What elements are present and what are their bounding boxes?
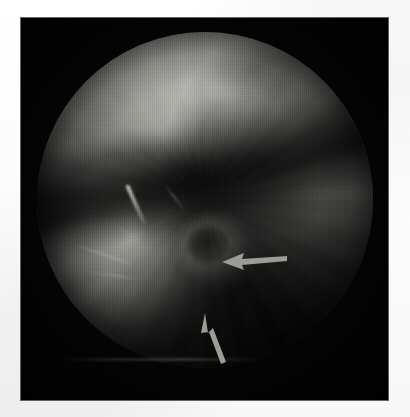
photograph-frame: [21, 18, 388, 400]
endoscopic-field-of-view: [37, 32, 373, 368]
lower-edge-streak: [57, 358, 267, 361]
lower-shadow-region: [37, 32, 373, 368]
scanned-page: [0, 0, 410, 417]
lesion-core: [188, 227, 228, 264]
figure-caption: [0, 402, 410, 417]
